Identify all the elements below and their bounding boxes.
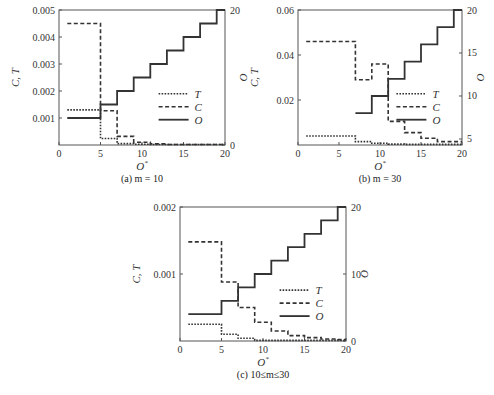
y-left-tick-label: 0.06 xyxy=(277,5,295,16)
y-right-tick-label: 0 xyxy=(351,336,356,347)
x-tick-label: 0 xyxy=(296,148,301,159)
chart-panel-b: 051015200.020.040.065101520C, TOO*(b) m … xyxy=(248,5,486,186)
legend-label-O: O xyxy=(195,114,203,126)
x-tick-label: 10 xyxy=(137,148,147,159)
series-C-line xyxy=(67,24,225,145)
chart-panel-a: 051015200.0010.0020.0030.0040.005020C, T… xyxy=(9,5,249,186)
y-right-tick-label: 20 xyxy=(467,5,477,16)
x-tick-label: 20 xyxy=(341,344,351,355)
y-right-tick-label: 15 xyxy=(467,47,477,58)
series-T-line xyxy=(188,324,346,340)
y-right-tick-label: 10 xyxy=(467,90,477,101)
y-left-tick-label: 0.004 xyxy=(33,32,56,43)
chart-caption: (c) 10≤m≤30 xyxy=(237,369,289,381)
y-left-tick-label: 0.001 xyxy=(154,269,177,280)
x-axis-label: O* xyxy=(257,355,269,368)
y-right-axis-label: O xyxy=(358,270,370,278)
legend-label-C: C xyxy=(316,297,324,309)
series-C-line xyxy=(188,242,346,340)
chart-panel-c: 051015200.0010.00201020C, TOO*(c) 10≤m≤3… xyxy=(130,202,370,382)
legend-label-T: T xyxy=(316,284,323,296)
series-T-line xyxy=(306,136,462,144)
y-left-tick-label: 0.003 xyxy=(33,59,56,70)
x-tick-label: 20 xyxy=(220,148,230,159)
legend-label-C: C xyxy=(195,101,203,113)
series-C-line xyxy=(306,42,462,142)
x-tick-label: 10 xyxy=(258,344,268,355)
x-tick-label: 0 xyxy=(178,344,183,355)
y-left-tick-label: 0.002 xyxy=(154,202,177,213)
x-tick-label: 20 xyxy=(457,148,467,159)
x-tick-label: 5 xyxy=(98,148,103,159)
chart-caption: (a) m = 10 xyxy=(121,173,163,185)
y-right-tick-label: 20 xyxy=(230,5,240,16)
x-axis-label: O* xyxy=(136,159,148,172)
x-axis-label: O* xyxy=(374,159,386,172)
chart-caption: (b) m = 30 xyxy=(359,173,402,185)
y-left-axis-label: C, T xyxy=(130,264,142,284)
y-left-tick-label: 0.005 xyxy=(33,5,56,16)
y-left-tick-label: 0.04 xyxy=(277,50,295,61)
x-tick-label: 10 xyxy=(375,148,385,159)
y-left-tick-label: 0.02 xyxy=(277,95,295,106)
figure: 051015200.0010.0020.0030.0040.005020C, T… xyxy=(0,0,494,395)
y-right-tick-label: 5 xyxy=(467,133,472,144)
x-tick-label: 15 xyxy=(416,148,426,159)
legend-label-T: T xyxy=(195,88,202,100)
legend-label-C: C xyxy=(432,101,440,113)
y-right-axis-label: O xyxy=(474,73,486,81)
y-left-axis-label: C, T xyxy=(9,67,21,87)
y-right-tick-label: 20 xyxy=(351,202,361,213)
legend-label-O: O xyxy=(432,114,440,126)
y-right-tick-label: 0 xyxy=(230,140,235,151)
y-left-tick-label: 0.002 xyxy=(33,86,56,97)
x-tick-label: 5 xyxy=(219,344,224,355)
legend-label-T: T xyxy=(432,88,439,100)
legend-label-O: O xyxy=(316,310,324,322)
x-tick-label: 0 xyxy=(57,148,62,159)
x-tick-label: 15 xyxy=(300,344,310,355)
series-O-line xyxy=(355,10,462,113)
x-tick-label: 5 xyxy=(337,148,342,159)
y-left-tick-label: 0.001 xyxy=(33,113,56,124)
x-tick-label: 15 xyxy=(179,148,189,159)
y-left-axis-label: C, T xyxy=(248,67,260,87)
